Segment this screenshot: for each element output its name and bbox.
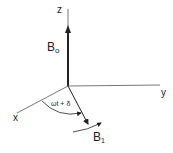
b0-label: Bo xyxy=(47,40,60,55)
z-axis-label: z xyxy=(57,4,62,15)
b0-arrowhead xyxy=(65,25,71,33)
angle-label: ωt + δ xyxy=(51,100,70,107)
b1-vector xyxy=(68,86,88,124)
rotating-field-diagram: z y x Bo B1 ωt + δ xyxy=(0,0,173,153)
b1-label: B1 xyxy=(93,130,105,144)
x-axis-label: x xyxy=(13,112,18,123)
y-axis xyxy=(68,85,160,86)
y-axis-label: y xyxy=(161,87,166,98)
